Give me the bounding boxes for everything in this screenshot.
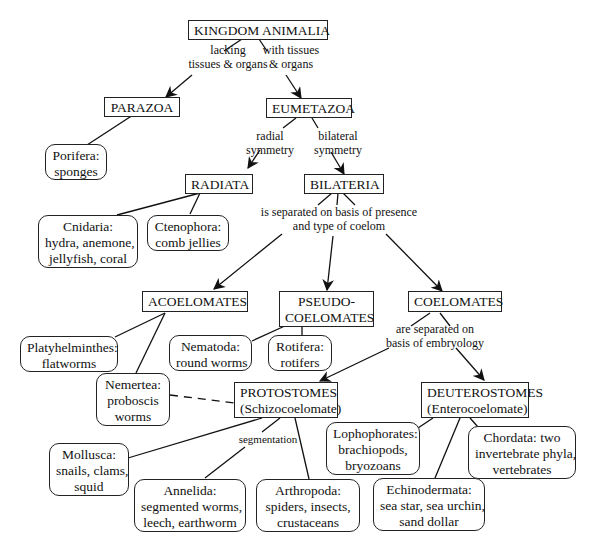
connector-line — [136, 313, 165, 373]
node-rotifera[interactable]: Rotifera: rotifers — [268, 335, 332, 371]
edge-label-with-tissues: with tissues & organs — [256, 43, 326, 71]
connector-line — [205, 447, 245, 478]
node-deuterostomes[interactable]: DEUTEROSTOMES (Enterocoelomate) — [421, 382, 529, 418]
edge-label-coelom: is separated on basis of presence and ty… — [254, 205, 424, 233]
connector-arrow — [327, 236, 333, 290]
connector-line — [115, 313, 165, 337]
connector-arrow — [166, 75, 192, 97]
concept-map: lacking tissues & organs with tissues & … — [0, 0, 594, 545]
node-cnidaria[interactable]: Cnidaria: hydra, anemone, jellyfish, cor… — [38, 215, 138, 268]
edge-label-radial-symmetry: radial symmetry — [240, 129, 300, 157]
connector-line — [343, 193, 355, 205]
dashed-connector — [170, 395, 234, 403]
connector-line — [318, 193, 332, 205]
node-echinodermata[interactable]: Echinodermata: sea star, sea urchin, san… — [373, 478, 485, 531]
node-eumetazoa[interactable]: EUMETAZOA — [266, 98, 352, 118]
node-nemertea[interactable]: Nemertea: proboscis worms — [96, 373, 170, 426]
node-acoelomates[interactable]: ACOELOMATES — [142, 291, 248, 312]
node-annelida[interactable]: Annelida: segmented worms, leech, earthw… — [134, 479, 246, 532]
node-radiata[interactable]: RADIATA — [185, 174, 253, 194]
connector-line — [295, 418, 309, 479]
connector-line — [312, 118, 318, 128]
connector-line — [283, 118, 296, 128]
connector-line — [87, 115, 133, 145]
node-chordata[interactable]: Chordata: two invertebrate phyla, verteb… — [468, 426, 576, 479]
connector-arrow — [286, 75, 301, 98]
node-coelomates[interactable]: COELOMATES — [408, 291, 502, 312]
connector-line — [435, 418, 460, 478]
node-parazoa[interactable]: PARAZOA — [104, 97, 180, 117]
node-bilateria[interactable]: BILATERIA — [304, 174, 384, 194]
connector-line — [117, 193, 200, 215]
node-pseudocoelomates[interactable]: PSEUDO- COELOMATES — [279, 291, 374, 327]
node-arthropoda[interactable]: Arthropoda: spiders, insects, crustacean… — [256, 479, 360, 532]
node-kingdom-animalia[interactable]: KINGDOM ANIMALIA — [188, 20, 328, 40]
node-nematoda[interactable]: Nematoda: round worms — [169, 335, 252, 371]
edge-label-embryology: are separated on basis of embryology — [380, 322, 490, 350]
connector-arrow — [456, 348, 484, 380]
connector-line — [190, 193, 200, 214]
edge-label-segmentation: segmentation — [232, 432, 304, 446]
node-protostomes[interactable]: PROTOSTOMES (Schizocoelomate) — [234, 382, 338, 418]
connector-arrow — [386, 234, 442, 291]
connector-line — [418, 418, 433, 428]
node-porifera[interactable]: Porifera: sponges — [45, 144, 107, 180]
edge-label-bilateral-symmetry: bilateral symmetry — [306, 129, 370, 157]
connector-line — [262, 418, 280, 432]
node-lophophorates[interactable]: Lophophorates: brachiopods, bryozoans — [326, 422, 420, 475]
node-mollusca[interactable]: Mollusca: snails, clams, squid — [49, 443, 129, 496]
node-platyhelminthes[interactable]: Platyhelminthes: flatworms — [20, 336, 118, 372]
node-ctenophora[interactable]: Ctenophora: comb jellies — [147, 215, 229, 251]
connector-line — [337, 193, 338, 205]
